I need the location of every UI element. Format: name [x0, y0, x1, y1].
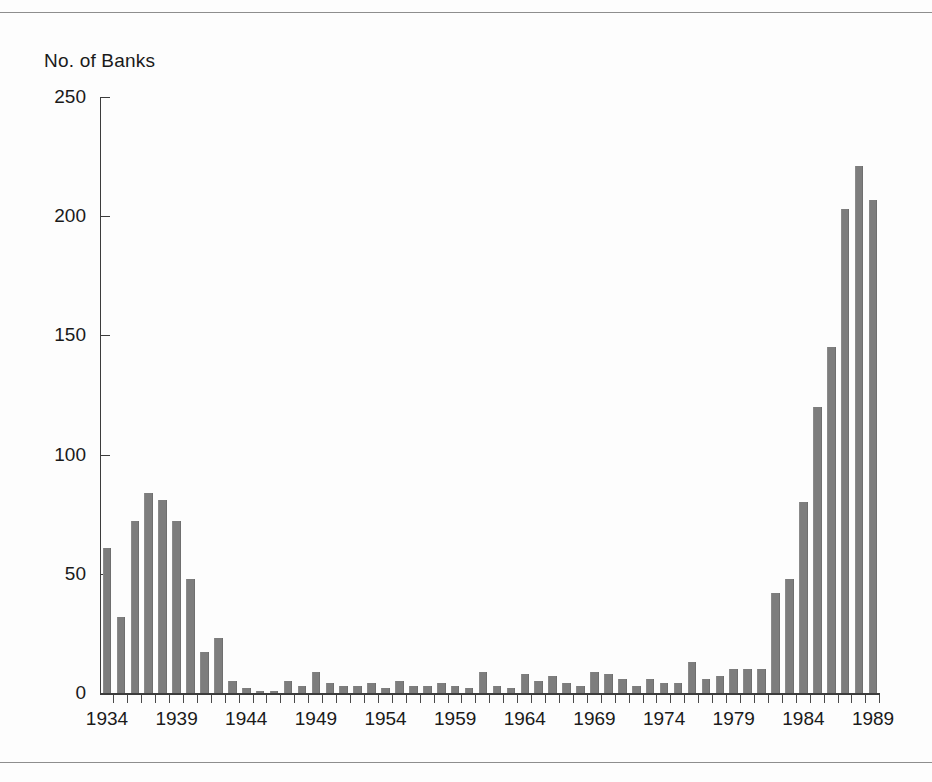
x-axis-minor-tick [879, 695, 880, 703]
x-axis-minor-tick [127, 695, 128, 703]
bar [228, 681, 237, 693]
x-axis-minor-tick [559, 695, 560, 703]
x-axis-minor-tick [740, 695, 741, 703]
bar [632, 686, 641, 693]
x-axis-minor-tick [392, 695, 393, 703]
x-axis-minor-tick [573, 695, 574, 703]
x-axis-label: 1934 [86, 708, 128, 730]
bar [284, 681, 293, 693]
bar [743, 669, 752, 693]
x-axis-minor-tick [141, 695, 142, 703]
x-axis-minor-tick [448, 695, 449, 703]
x-axis-label: 1964 [504, 708, 546, 730]
bar [702, 679, 711, 693]
bar [841, 209, 850, 693]
x-axis-minor-tick [434, 695, 435, 703]
bar [534, 681, 543, 693]
x-axis-label: 1974 [643, 708, 685, 730]
x-axis-minor-tick [336, 695, 337, 703]
x-axis-minor-tick [545, 695, 546, 703]
bar [451, 686, 460, 693]
x-axis-minor-tick [294, 695, 295, 703]
bar [186, 579, 195, 693]
y-axis-label: 0 [28, 683, 86, 702]
x-axis-minor-tick [475, 695, 476, 703]
bar [785, 579, 794, 693]
bar [827, 347, 836, 693]
bar [409, 686, 418, 693]
bar [437, 683, 446, 693]
bar-chart-plot: 050100150200250 193419391944194919541959… [0, 0, 932, 782]
x-axis-label: 1959 [434, 708, 476, 730]
bar [172, 521, 181, 693]
bar [507, 688, 516, 693]
x-axis-minor-tick [461, 695, 462, 703]
figure-page: No. of Banks 050100150200250 19341939194… [0, 0, 932, 782]
x-axis-minor-tick [280, 695, 281, 703]
x-axis-label: 1989 [852, 708, 894, 730]
y-axis-line [100, 97, 101, 694]
x-axis-minor-tick [197, 695, 198, 703]
x-axis-minor-tick [531, 695, 532, 703]
y-axis-label: 50 [28, 564, 86, 583]
x-axis-minor-tick [420, 695, 421, 703]
bar [312, 672, 321, 693]
x-axis-minor-tick [517, 695, 518, 703]
y-axis-label: 200 [28, 206, 86, 225]
bar [771, 593, 780, 693]
bar [716, 676, 725, 693]
x-axis-minor-tick [726, 695, 727, 703]
x-axis-minor-tick [587, 695, 588, 703]
x-axis-minor-tick [865, 695, 866, 703]
x-axis-minor-tick [629, 695, 630, 703]
bar [548, 676, 557, 693]
bar [326, 683, 335, 693]
bar [799, 502, 808, 693]
x-axis-minor-tick [155, 695, 156, 703]
bar [144, 493, 153, 693]
bar [242, 688, 251, 693]
y-axis-tick [100, 335, 110, 336]
bar [729, 669, 738, 693]
x-axis-minor-tick [712, 695, 713, 703]
x-axis-minor-tick [782, 695, 783, 703]
bar [660, 683, 669, 693]
bar [576, 686, 585, 693]
x-axis-minor-tick [322, 695, 323, 703]
x-axis-minor-tick [183, 695, 184, 703]
bar [158, 500, 167, 693]
bar [256, 691, 265, 693]
y-axis-label: 250 [28, 87, 86, 106]
x-axis-label: 1969 [573, 708, 615, 730]
x-axis-minor-tick [670, 695, 671, 703]
bar [757, 669, 766, 693]
bar [646, 679, 655, 693]
x-axis-label: 1979 [713, 708, 755, 730]
bar [521, 674, 530, 693]
x-axis-minor-tick [851, 695, 852, 703]
x-axis-minor-tick [643, 695, 644, 703]
bar [465, 688, 474, 693]
x-axis-minor-tick [754, 695, 755, 703]
y-axis-tick [100, 216, 110, 217]
x-axis-minor-tick [253, 695, 254, 703]
bar [479, 672, 488, 693]
y-axis-label: 150 [28, 325, 86, 344]
y-axis-tick [100, 97, 110, 98]
bar [869, 200, 878, 693]
y-axis-tick [100, 693, 110, 694]
bar [688, 662, 697, 693]
x-axis-minor-tick [796, 695, 797, 703]
x-axis-minor-tick [364, 695, 365, 703]
x-axis-minor-tick [378, 695, 379, 703]
bar [353, 686, 362, 693]
bar [103, 548, 112, 693]
bar [270, 691, 279, 693]
x-axis-minor-tick [211, 695, 212, 703]
x-axis-minor-tick [503, 695, 504, 703]
x-axis-minor-tick [113, 695, 114, 703]
x-axis-label: 1944 [225, 708, 267, 730]
bar [339, 686, 348, 693]
bar [367, 683, 376, 693]
bar [298, 686, 307, 693]
